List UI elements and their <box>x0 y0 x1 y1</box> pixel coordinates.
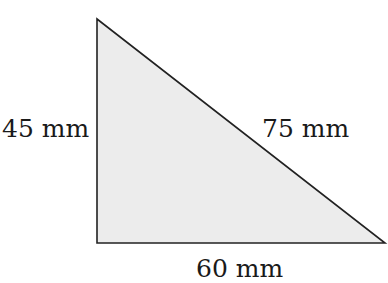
left-side-label: 45 mm <box>2 114 89 143</box>
bottom-side-label: 60 mm <box>196 254 283 283</box>
hypotenuse-label: 75 mm <box>262 114 349 143</box>
triangle-diagram: 45 mm 75 mm 60 mm <box>0 0 388 283</box>
